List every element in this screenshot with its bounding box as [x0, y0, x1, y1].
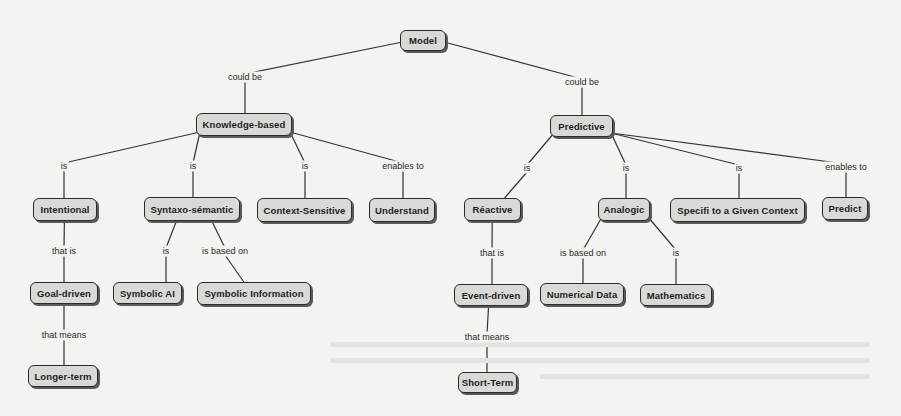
- concept-node-analogic: Analogic: [598, 198, 650, 221]
- link-label-syn-ai: is: [162, 246, 171, 257]
- link-label-model-kb: could be: [227, 72, 263, 83]
- link-label-kb-int: is: [60, 161, 69, 172]
- edge-line: [290, 132, 403, 163]
- link-label-syn-info: is based on: [201, 246, 249, 257]
- edge-line: [505, 172, 527, 198]
- edge-line: [64, 132, 200, 163]
- concept-node-numdata: Numerical Data: [540, 283, 624, 305]
- concept-node-understand: Understand: [369, 198, 435, 222]
- link-label-pred-pre: enables to: [824, 162, 868, 173]
- concept-node-short: Short-Term: [458, 372, 517, 393]
- edge-line: [225, 255, 244, 282]
- link-label-goal-long: that means: [41, 330, 88, 341]
- concept-node-syntaxo: Syntaxo-sémantic: [144, 197, 240, 221]
- concept-node-reactive: Réactive: [464, 198, 521, 221]
- link-label-kb-und: enables to: [381, 161, 425, 172]
- concept-node-goal: Goal-driven: [30, 282, 98, 304]
- edge-line: [611, 133, 626, 165]
- concept-node-predictive: Predictive: [550, 115, 613, 137]
- edge-line: [487, 306, 489, 334]
- link-label-pred-rea: is: [523, 163, 532, 174]
- concept-node-event: Event-driven: [454, 284, 528, 306]
- edge-line: [245, 43, 400, 75]
- edge-line: [212, 221, 225, 248]
- concept-node-model: Model: [400, 30, 446, 51]
- concept-node-specifi: Specifi to a Given Context: [670, 198, 805, 222]
- link-label-int-goal: that is: [51, 246, 77, 257]
- edge-line: [193, 132, 200, 163]
- link-label-ana-num: is based on: [559, 248, 607, 259]
- edge-line: [611, 133, 739, 165]
- link-label-pred-spe: is: [735, 163, 744, 174]
- edge-line: [648, 217, 676, 250]
- link-label-event-short: that means: [464, 332, 511, 343]
- concept-node-math: Mathematics: [640, 284, 712, 306]
- link-label-kb-syn: is: [189, 161, 198, 172]
- edge-line: [290, 132, 305, 163]
- edge-line: [583, 217, 602, 250]
- link-label-model-pred: could be: [564, 77, 600, 88]
- link-label-pred-ana: is: [622, 163, 631, 174]
- link-label-ana-math: is: [672, 248, 681, 259]
- concept-map: could becould beisisisenables toisisisen…: [0, 0, 901, 416]
- edge-line: [446, 43, 582, 80]
- edge-line: [611, 133, 846, 164]
- bleed-through-line: [540, 374, 870, 379]
- concept-node-context: Context-Sensitive: [257, 198, 352, 222]
- link-label-kb-ctx: is: [301, 161, 310, 172]
- edge-line: [527, 133, 554, 165]
- concept-node-longer: Longer-term: [28, 365, 98, 387]
- bleed-through-line: [330, 342, 870, 347]
- concept-node-syminfo: Symbolic Information: [197, 282, 311, 305]
- concept-node-intentional: Intentional: [33, 198, 97, 221]
- concept-node-predict: Predict: [822, 197, 868, 220]
- edge-line: [166, 221, 176, 248]
- concept-node-symai: Symbolic AI: [113, 282, 182, 304]
- bleed-through-line: [330, 358, 870, 363]
- link-label-rea-event: that is: [479, 248, 505, 259]
- concept-node-knowledge: Knowledge-based: [196, 113, 292, 136]
